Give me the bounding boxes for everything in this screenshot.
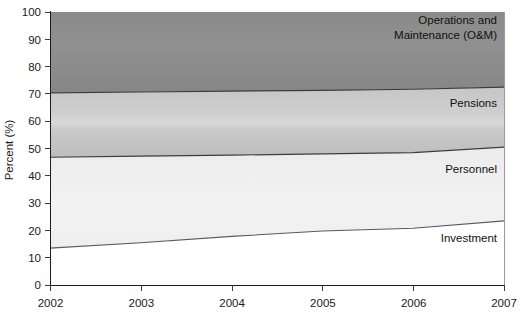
x-tick-label: 2005	[310, 297, 336, 309]
y-tick-label: 100	[22, 6, 41, 18]
y-tick-label: 20	[28, 225, 41, 237]
area-pensions	[50, 87, 504, 157]
y-tick-label: 90	[28, 34, 41, 46]
y-tick-label: 40	[28, 170, 41, 182]
series-label-investment: Investment	[441, 232, 498, 244]
series-label-personnel: Personnel	[445, 163, 497, 175]
y-tick-label: 0	[35, 279, 41, 291]
series-label-pensions: Pensions	[450, 97, 498, 109]
x-tick-label: 2007	[491, 297, 517, 309]
y-tick-label: 50	[28, 143, 41, 155]
stacked-area-chart: 100 90 80 70 60 50 40 30 20 10 0 Percent…	[0, 0, 526, 317]
y-tick-label: 30	[28, 197, 41, 209]
x-tick-label: 2003	[129, 297, 155, 309]
y-tick-label: 10	[28, 252, 41, 264]
y-axis-ticks	[45, 12, 50, 285]
series-label-operations-and-maintenance-line2: Maintenance (O&M)	[394, 29, 497, 41]
y-tick-label: 60	[28, 115, 41, 127]
x-axis-tick-labels: 2002 2003 2004 2005 2006 2007	[38, 297, 517, 309]
chart-canvas: 100 90 80 70 60 50 40 30 20 10 0 Percent…	[0, 0, 526, 317]
y-tick-label: 80	[28, 61, 41, 73]
y-axis-tick-labels: 100 90 80 70 60 50 40 30 20 10 0	[22, 6, 41, 291]
y-axis-title: Percent (%)	[3, 119, 15, 180]
x-tick-label: 2004	[219, 297, 245, 309]
y-tick-label: 70	[28, 88, 41, 100]
x-tick-label: 2006	[401, 297, 427, 309]
series-label-operations-and-maintenance-line1: Operations and	[418, 14, 497, 26]
x-tick-label: 2002	[38, 297, 64, 309]
